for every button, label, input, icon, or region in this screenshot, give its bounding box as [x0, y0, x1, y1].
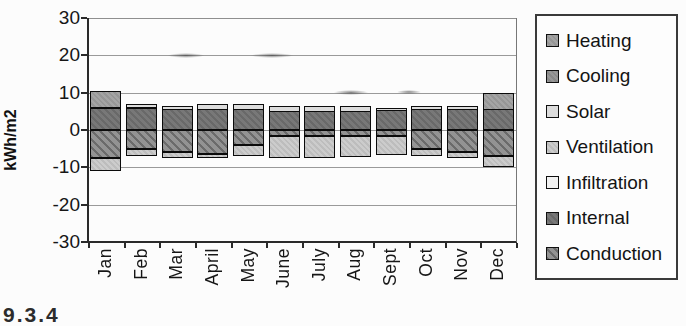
infiltration-swatch-icon: [546, 176, 559, 189]
bar-segment-internal-Aug: [340, 111, 371, 130]
bar-segment-internal-Oct: [411, 109, 442, 130]
scan-smudge: [251, 53, 293, 58]
bar-segment-ventilation-Mar: [162, 152, 193, 158]
bar-segment-ventilation-Oct: [411, 149, 442, 156]
bar-segment-internal-Mar: [162, 109, 193, 130]
legend-label-solar: Solar: [566, 101, 610, 123]
x-tick-mark: [373, 243, 375, 248]
bar-segment-solar-Aug: [340, 106, 371, 112]
legend-item-solar: Solar: [546, 101, 676, 123]
x-tick-mark: [159, 243, 161, 248]
x-axis-label-Oct: Oct: [416, 248, 437, 277]
bar-segment-solar-May: [233, 104, 264, 110]
y-tick-label: -10: [30, 156, 80, 178]
legend-item-infiltration: Infiltration: [546, 172, 676, 194]
x-axis-label-Mar: Mar: [166, 248, 187, 280]
bar-segment-heating-Dec: [483, 93, 514, 110]
figure-number: 9.3.4: [3, 303, 60, 326]
x-tick-mark: [124, 243, 126, 248]
bar-segment-internal-Feb: [126, 108, 157, 130]
bar-segment-heating-Jan: [90, 91, 121, 108]
solar-swatch-icon: [546, 105, 559, 118]
bar-segment-solar-Nov: [447, 106, 478, 110]
y-tick-label: -30: [30, 231, 80, 253]
x-axis-label-May: May: [238, 248, 259, 283]
bar-segment-conduction-Mar: [162, 130, 193, 152]
bar-segment-solar-Feb: [126, 104, 157, 108]
scan-smudge: [168, 53, 204, 58]
bar-segment-solar-July: [304, 106, 335, 112]
bar-segment-conduction-Dec: [483, 130, 514, 156]
bar-segment-ventilation-Aug: [340, 136, 371, 157]
legend-item-internal: Internal: [546, 207, 676, 229]
ventilation-swatch-icon: [546, 141, 559, 154]
bar-segment-internal-May: [233, 109, 264, 130]
internal-swatch-icon: [546, 212, 559, 225]
x-tick-mark: [338, 243, 340, 248]
bar-segment-ventilation-Feb: [126, 149, 157, 156]
y-tick-label: -20: [30, 194, 80, 216]
bar-segment-conduction-Jan: [90, 130, 121, 158]
gridline--20: [88, 205, 516, 206]
bar-segment-internal-Sept: [376, 109, 407, 130]
x-tick-mark: [480, 243, 482, 248]
bar-segment-conduction-Feb: [126, 130, 157, 149]
bar-segment-ventilation-Sept: [376, 136, 407, 155]
legend-label-internal: Internal: [566, 207, 629, 229]
bar-segment-ventilation-July: [304, 136, 335, 158]
legend-label-ventilation: Ventilation: [566, 136, 654, 158]
bar-segment-internal-April: [197, 109, 228, 130]
legend-item-heating: Heating: [546, 30, 676, 52]
bar-segment-conduction-May: [233, 130, 264, 145]
x-axis-label-Aug: Aug: [344, 248, 365, 281]
bar-segment-internal-July: [304, 111, 335, 130]
x-axis-label-July: July: [309, 248, 330, 281]
bar-segment-solar-Mar: [162, 106, 193, 110]
bar-segment-internal-Dec: [483, 109, 514, 130]
x-axis-label-Feb: Feb: [131, 248, 152, 280]
x-tick-mark: [231, 243, 233, 248]
bar-segment-ventilation-Nov: [447, 152, 478, 158]
gridline--10: [88, 167, 516, 168]
bar-segment-ventilation-Dec: [483, 156, 514, 167]
legend: Heating Cooling Solar Ventilation Infilt…: [535, 14, 678, 280]
scan-smudge: [397, 90, 421, 94]
bar-segment-solar-April: [197, 104, 228, 110]
x-axis-label-Nov: Nov: [451, 248, 472, 281]
bar-segment-ventilation-June: [269, 136, 300, 158]
legend-label-infiltration: Infiltration: [566, 172, 648, 194]
x-axis-label-Dec: Dec: [487, 248, 508, 281]
x-tick-mark: [302, 243, 304, 248]
y-tick-label: 30: [30, 7, 80, 29]
heating-swatch-icon: [546, 34, 559, 47]
y-tick-label: 20: [30, 44, 80, 66]
x-axis-label-Jan: Jan: [95, 248, 116, 278]
x-tick-mark: [409, 243, 411, 248]
bar-segment-internal-June: [269, 111, 300, 130]
x-axis-label-June: June: [273, 248, 294, 288]
cooling-swatch-icon: [546, 70, 559, 83]
bar-segment-conduction-Oct: [411, 130, 442, 149]
legend-label-heating: Heating: [566, 30, 632, 52]
y-axis-title: kWh/m2: [2, 85, 24, 195]
bar-segment-ventilation-May: [233, 145, 264, 156]
x-tick-mark: [88, 243, 90, 248]
bar-segment-solar-Oct: [411, 106, 442, 110]
bar-segment-internal-Jan: [90, 108, 121, 130]
x-axis-label-April: April: [202, 248, 223, 286]
y-axis-line: [87, 18, 89, 243]
bar-segment-conduction-April: [197, 130, 228, 154]
legend-label-conduction: Conduction: [566, 243, 662, 265]
bar-segment-conduction-Nov: [447, 130, 478, 152]
x-tick-mark: [195, 243, 197, 248]
plot-top-border: [88, 18, 516, 19]
legend-item-cooling: Cooling: [546, 65, 676, 87]
x-tick-mark: [516, 243, 518, 248]
y-tick-label: 10: [30, 82, 80, 104]
x-tick-mark: [445, 243, 447, 248]
gridline-20: [88, 55, 516, 56]
bar-segment-solar-June: [269, 106, 300, 112]
x-tick-mark: [266, 243, 268, 248]
conduction-swatch-icon: [546, 247, 559, 260]
